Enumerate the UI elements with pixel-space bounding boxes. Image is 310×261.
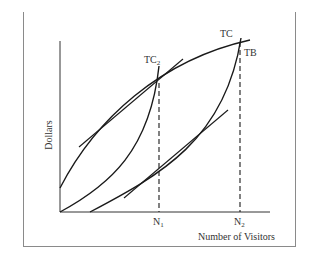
tc2-label: TC2: [144, 54, 161, 67]
n2-label: N2: [234, 216, 245, 229]
n1-label-sub: 1: [160, 221, 164, 229]
n1-label: N1: [153, 216, 164, 229]
tc2-label-sub: 2: [157, 59, 161, 67]
upper-tangent-line: [79, 59, 183, 147]
tb-label: TB: [244, 47, 257, 58]
tc-curve: [90, 38, 241, 212]
visitor-cost-benefit-diagram: Dollars TC TB TC2 N1 N2 Number of Visito…: [0, 0, 310, 261]
x-axis-label: Number of Visitors: [198, 231, 275, 242]
y-axis-label: Dollars: [43, 120, 54, 150]
n2-label-main: N: [234, 216, 241, 227]
n1-label-main: N: [153, 216, 160, 227]
n2-label-sub: 2: [241, 221, 245, 229]
tc-label: TC: [220, 28, 233, 39]
tc2-label-main: TC: [144, 54, 157, 65]
lower-tangent-line: [124, 110, 228, 198]
